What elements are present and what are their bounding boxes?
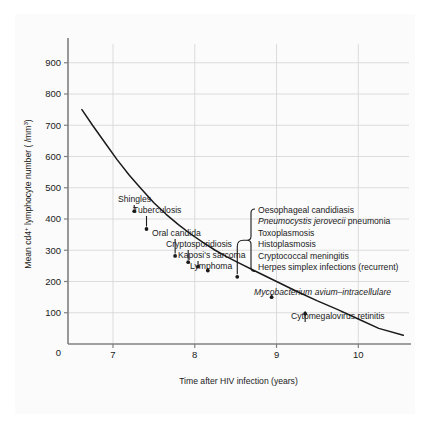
y-origin-label: 0 [56,347,61,358]
annotation-label: Shingles [118,194,151,204]
cd4-decline-chart: 1002003004005006007008009000 78910 Shing… [0,0,430,427]
bracket-item-label: Pneumocystis jerovecii pneumonia [258,216,391,226]
y-tick-label: 600 [45,151,61,162]
annotation-label: Mycobacterium avium–intracellulare [254,287,391,297]
group-brace [247,209,255,272]
bracket-item-label: Toxoplasmosis [258,228,314,238]
y-tick-label: 800 [45,88,61,99]
y-tick-label: 400 [45,213,61,224]
axis-titles: Time after HIV infection (years)Mean cd4… [22,119,298,386]
annotation-marker [145,227,149,231]
bracket-item-label: Histoplasmosis [258,239,316,249]
annotation-marker [173,254,177,258]
annotation-label: Tuberculosis [133,205,181,215]
x-tick-label: 7 [110,349,115,360]
y-axis-title: Mean cd4+ lymphocyte number ( /mm3) [22,119,34,269]
group-marker [235,275,239,279]
bracket-item-label: Herpes simplex infections (recurrent) [258,262,399,272]
y-tick-label: 100 [45,307,61,318]
annotation-label: Lymphoma [190,261,232,271]
annotation-label: Cryptosporidiosis [166,239,232,249]
x-tick-labels: 78910 [110,344,363,360]
annotation-label: Cytomegalovirus retinitis [291,311,385,321]
bracket-item-label: Oesophageal candidiasis [258,205,354,215]
y-tick-label: 200 [45,276,61,287]
bracket-group: Oesophageal candidiasisPneumocystis jero… [235,205,398,279]
annotation-label: Oral candida [152,228,201,238]
axis-lines [68,38,411,344]
y-tick-label: 300 [45,245,61,256]
y-tick-label: 900 [45,57,61,68]
figure-container: 1002003004005006007008009000 78910 Shing… [0,0,430,427]
x-tick-label: 9 [274,349,279,360]
y-tick-labels: 1002003004005006007008009000 [45,57,68,358]
y-tick-label: 700 [45,120,61,131]
x-tick-label: 8 [192,349,197,360]
y-tick-label: 500 [45,182,61,193]
annotation-label: Kaposi's sarcoma [178,250,246,260]
bracket-item-label: Cryptococcal meningitis [258,251,349,261]
x-tick-label: 10 [353,349,364,360]
x-axis-title: Time after HIV infection (years) [179,376,298,386]
